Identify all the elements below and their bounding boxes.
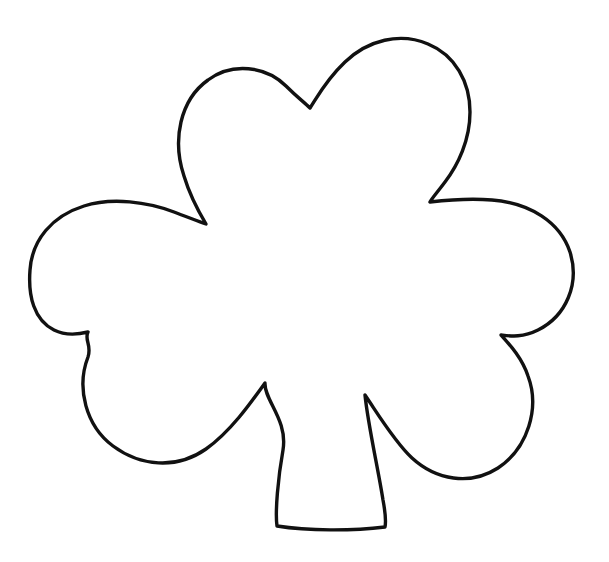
coloring-page-canvas [0, 0, 609, 562]
shamrock-artwork [0, 0, 609, 562]
